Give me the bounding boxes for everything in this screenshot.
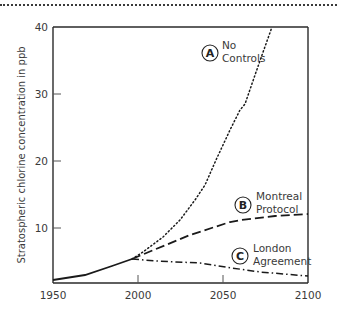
label-b-line2: Protocol [256,203,298,215]
y-tick-30: 30 [35,88,48,100]
y-tick-20: 20 [35,155,48,167]
label-c-line2: Agreement [253,255,311,267]
label-c-line1: London [253,242,292,254]
label-no-controls: A No Controls [202,39,265,64]
y-axis-label: Stratospheric chlorine concentration in … [16,46,27,263]
label-london-agreement: C London Agreement [232,242,311,267]
x-tick-2100: 2100 [295,289,322,301]
y-tick-10: 10 [35,222,48,234]
x-tick-2050: 2050 [210,289,237,301]
chart: 10 20 30 40 Stratospheric chlorine conce… [0,0,337,310]
label-b-line1: Montreal [256,190,302,202]
badge-b: B [239,199,247,212]
badge-c: C [236,250,244,263]
x-axis: 1950 2000 2050 2100 [40,275,322,301]
x-tick-1950: 1950 [40,289,67,301]
label-a-line1: No [222,39,236,51]
label-a-line2: Controls [222,52,265,64]
series-historical [53,259,132,280]
y-axis: 10 20 30 40 Stratospheric chlorine conce… [16,21,61,264]
y-tick-40: 40 [35,21,48,33]
badge-a: A [206,47,215,60]
label-montreal-protocol: B Montreal Protocol [235,190,302,215]
x-tick-2000: 2000 [125,289,152,301]
